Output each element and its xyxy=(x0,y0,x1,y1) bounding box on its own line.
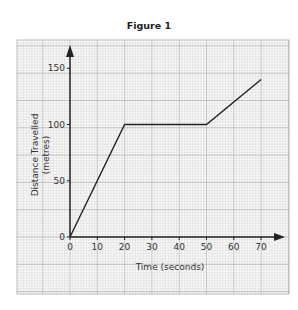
svg-text:50: 50 xyxy=(201,242,213,252)
svg-text:50: 50 xyxy=(54,176,66,186)
x-axis-label: Time (seconds) xyxy=(135,262,205,272)
graph-paper-grid xyxy=(17,40,289,294)
line-chart: 010203040506070050100150 Time (seconds) … xyxy=(0,0,298,310)
svg-text:Distance Travelled: Distance Travelled xyxy=(30,114,40,197)
svg-text:0: 0 xyxy=(59,232,65,242)
svg-text:70: 70 xyxy=(255,242,267,252)
svg-text:20: 20 xyxy=(119,242,131,252)
svg-text:60: 60 xyxy=(228,242,240,252)
svg-text:10: 10 xyxy=(92,242,104,252)
svg-text:30: 30 xyxy=(146,242,158,252)
svg-text:(metres): (metres) xyxy=(41,136,51,175)
svg-text:0: 0 xyxy=(67,242,73,252)
svg-text:150: 150 xyxy=(48,63,65,73)
svg-text:100: 100 xyxy=(48,120,65,130)
svg-text:40: 40 xyxy=(173,242,185,252)
